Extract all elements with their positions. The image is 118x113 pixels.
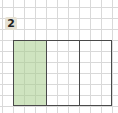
unshaded-part-3: [80, 41, 112, 105]
unshaded-part-2: [47, 41, 80, 105]
problem-number-badge: 2: [5, 17, 17, 30]
part-divider-1: [46, 41, 47, 105]
fraction-rectangle: [13, 40, 112, 106]
part-divider-2: [79, 41, 80, 105]
problem-number: 2: [7, 17, 15, 30]
shaded-part-1: [14, 41, 47, 105]
